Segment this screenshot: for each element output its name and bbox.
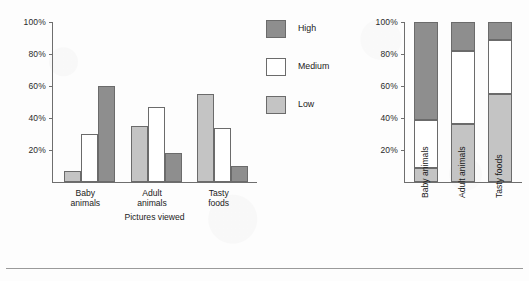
y-axis-tick xyxy=(401,118,404,119)
x-axis-line xyxy=(52,182,257,183)
bar-medium-0 xyxy=(81,134,98,182)
stack-segment-high-2 xyxy=(488,22,512,40)
y-axis-tick-label: 80% xyxy=(16,49,46,59)
legend-label-low: Low xyxy=(298,99,314,109)
category-label-0: Baby animals xyxy=(420,146,430,198)
y-axis-tick xyxy=(401,54,404,55)
y-axis-tick-label: 100% xyxy=(370,17,398,27)
y-axis-tick-label: 100% xyxy=(16,17,46,27)
bar-high-1 xyxy=(165,153,182,182)
bar-low-0 xyxy=(64,171,81,182)
legend-swatch-low xyxy=(266,96,286,114)
x-axis-title: Pictures viewed xyxy=(52,212,257,222)
y-axis-tick-label: 60% xyxy=(16,81,46,91)
y-axis-tick xyxy=(49,118,52,119)
stack-segment-high-1 xyxy=(451,22,475,51)
legend-swatch-medium xyxy=(266,58,286,76)
category-label-0: Baby animals xyxy=(52,189,119,208)
legend-label-high: High xyxy=(298,23,316,33)
bar-low-1 xyxy=(131,126,148,182)
stacked-bar-chart-panel: 20%40%60%80%100% Baby animalsAdult anima… xyxy=(368,0,529,265)
y-axis-tick-label: 40% xyxy=(16,113,46,123)
y-axis-line xyxy=(404,22,405,183)
y-axis-tick-label: 80% xyxy=(370,49,398,59)
y-axis-tick xyxy=(49,86,52,87)
y-axis-tick-label: 40% xyxy=(370,113,398,123)
stack-segment-high-0 xyxy=(414,22,438,120)
footer-divider xyxy=(6,268,523,269)
bar-high-0 xyxy=(98,86,115,182)
category-label-1: Adult animals xyxy=(457,146,467,198)
y-axis-tick xyxy=(49,54,52,55)
legend-swatch-high xyxy=(266,20,286,38)
y-axis-tick-label: 20% xyxy=(370,145,398,155)
stack-segment-medium-2 xyxy=(488,40,512,94)
figure-root: 20%40%60%80%100% Baby animalsAdult anima… xyxy=(0,0,529,281)
y-axis-tick xyxy=(49,22,52,23)
y-axis-tick-label: 20% xyxy=(16,145,46,155)
legend-label-medium: Medium xyxy=(298,61,329,71)
y-axis-tick xyxy=(401,86,404,87)
y-axis-line xyxy=(52,22,53,183)
y-axis-tick xyxy=(49,150,52,151)
stack-segment-medium-1 xyxy=(451,51,475,125)
bar-low-2 xyxy=(197,94,214,182)
y-axis-tick xyxy=(401,22,404,23)
bar-high-2 xyxy=(231,166,248,182)
grouped-bar-chart-panel: 20%40%60%80%100% Baby animalsAdult anima… xyxy=(0,0,262,250)
bar-medium-2 xyxy=(214,128,231,182)
y-axis-tick xyxy=(401,150,404,151)
category-label-2: Tasty foods xyxy=(494,155,504,198)
category-label-2: Tasty foods xyxy=(185,189,252,208)
y-axis-tick-label: 60% xyxy=(370,81,398,91)
bar-medium-1 xyxy=(148,107,165,182)
category-label-1: Adult animals xyxy=(119,189,186,208)
